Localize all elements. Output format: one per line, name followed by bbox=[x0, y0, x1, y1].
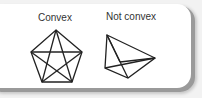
convex-pentagon bbox=[31, 30, 82, 82]
non-convex-quadrilateral bbox=[105, 35, 155, 78]
diagram-canvas bbox=[0, 0, 202, 98]
